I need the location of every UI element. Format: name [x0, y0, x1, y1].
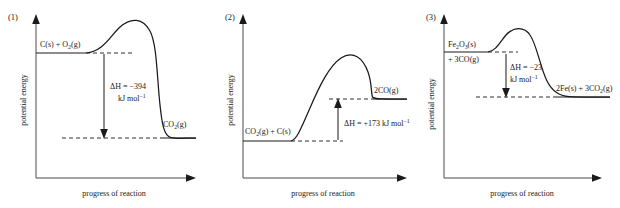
- x-axis-title-3: progress of reaction: [490, 189, 554, 198]
- energy-diagram-panel-3: (3) Fe2O3(s) + 3CO(g) 2F: [414, 0, 620, 208]
- product-label-1: CO2(g): [163, 120, 187, 130]
- energy-diagram-panel-2: (2) CO2(g) + C(s) 2CO(g): [207, 0, 413, 208]
- x-axis-arrowhead-1: [186, 174, 196, 182]
- reactant-label-line1-3: Fe2O3(s): [448, 40, 476, 50]
- delta-h-label-line2-3: kJ mol−1: [510, 74, 538, 84]
- delta-h-arrow-3: [502, 54, 510, 98]
- reaction-curve-2: [291, 55, 407, 141]
- delta-h-arrowhead-3: [502, 88, 510, 98]
- reactant-label-2: CO2(g) + C(s): [245, 127, 291, 137]
- x-axis-arrowhead-3: [592, 174, 602, 182]
- delta-h-label-line1-3: ΔH = −23: [510, 63, 542, 72]
- delta-h-label-line1-1: ΔH = −394: [110, 82, 146, 91]
- delta-h-label-line1-2: ΔH = +173 kJ mol−1: [344, 118, 410, 128]
- energy-profile-figure: (1) C(s) + O2(g) CO2(g): [0, 0, 620, 208]
- delta-h-arrow-2: [334, 98, 342, 140]
- product-label-2: 2CO(g): [374, 86, 399, 95]
- y-axis-title-1: potential energy: [19, 74, 28, 126]
- product-label-3: 2Fe(s) + 3CO2(g): [556, 84, 613, 94]
- delta-h-arrowhead-1: [100, 129, 108, 139]
- panel-number-1: (1): [8, 12, 18, 22]
- delta-h-label-line2-1: kJ mol−1: [118, 93, 146, 103]
- panel-number-3: (3): [426, 12, 436, 22]
- reactant-label-1: C(s) + O2(g): [40, 40, 81, 50]
- y-axis-title-2: potential energy: [226, 74, 235, 126]
- y-axis-title-3: potential energy: [427, 78, 436, 130]
- y-axis-arrowhead-3: [440, 14, 448, 24]
- axes-2: [239, 14, 407, 182]
- energy-diagram-panel-1: (1) C(s) + O2(g) CO2(g): [0, 0, 206, 208]
- delta-h-arrowhead-2: [334, 98, 342, 108]
- panel-number-2: (2): [225, 12, 235, 22]
- delta-h-arrow-1: [100, 54, 108, 139]
- y-axis-arrowhead-1: [32, 14, 40, 24]
- x-axis-arrowhead-2: [397, 174, 407, 182]
- y-axis-arrowhead-2: [239, 14, 247, 24]
- reactant-label-line2-3: + 3CO(g): [448, 55, 479, 64]
- x-axis-title-1: progress of reaction: [82, 189, 146, 198]
- x-axis-title-2: progress of reaction: [291, 189, 355, 198]
